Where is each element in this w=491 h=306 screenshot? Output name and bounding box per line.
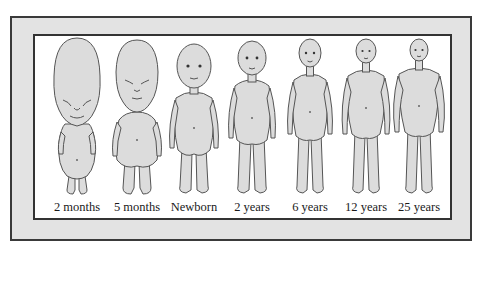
label-25-years: 25 years [387,200,451,215]
label-2-months: 2 months [45,200,109,215]
label-newborn: Newborn [162,200,226,215]
diagram-panel: 2 months 5 months Newborn 2 years 6 year… [33,34,452,220]
label-2-years: 2 years [220,200,284,215]
label-6-years: 6 years [278,200,342,215]
label-5-months: 5 months [105,200,169,215]
